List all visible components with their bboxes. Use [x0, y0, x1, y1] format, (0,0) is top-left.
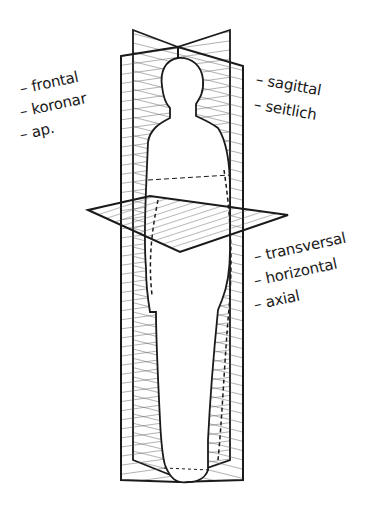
transverse-plane	[88, 196, 288, 252]
